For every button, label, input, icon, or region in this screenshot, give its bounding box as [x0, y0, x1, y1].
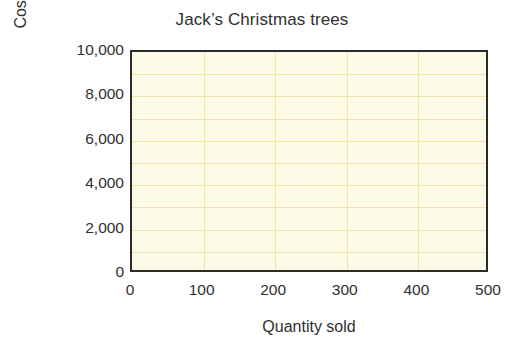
gridline-horizontal [132, 207, 486, 208]
gridline-horizontal [132, 163, 486, 164]
y-axis-tick-label: 0 [30, 263, 124, 281]
gridline-vertical [418, 52, 419, 270]
gridline-horizontal [132, 96, 486, 97]
gridline-horizontal [132, 119, 486, 120]
chart-title: Jack’s Christmas trees [0, 10, 524, 30]
x-axis-tick-label: 0 [126, 281, 135, 299]
gridline-horizontal [132, 185, 486, 186]
gridline-horizontal [132, 141, 486, 142]
y-axis-tick-label: 2,000 [30, 219, 124, 237]
x-axis-tick-label: 400 [403, 281, 429, 299]
x-axis-tick-label: 200 [260, 281, 286, 299]
plot-area [130, 50, 488, 272]
gridline-horizontal [132, 230, 486, 231]
x-axis-tick-label: 500 [475, 281, 501, 299]
y-axis-tick-label: 6,000 [30, 130, 124, 148]
gridline-horizontal [132, 74, 486, 75]
gridline-vertical [347, 52, 348, 270]
y-axis-tick-label: 8,000 [30, 85, 124, 103]
y-axis-tick-label: 4,000 [30, 174, 124, 192]
x-axis-title: Quantity sold [130, 318, 488, 336]
gridline-vertical [204, 52, 205, 270]
gridline-vertical [275, 52, 276, 270]
chart-screenshot: Jack’s Christmas trees Costs/revenue (£)… [0, 0, 524, 359]
x-axis-tick-labels: 0100200300400500 [130, 281, 488, 303]
y-axis-tick-labels: 02,0004,0006,0008,00010,000 [30, 50, 124, 272]
x-axis-tick-label: 100 [189, 281, 215, 299]
horizontal-gridlines [132, 52, 486, 270]
x-axis-tick-label: 300 [332, 281, 358, 299]
gridline-horizontal [132, 252, 486, 253]
y-axis-tick-label: 10,000 [30, 41, 124, 59]
vertical-gridlines [132, 52, 486, 270]
